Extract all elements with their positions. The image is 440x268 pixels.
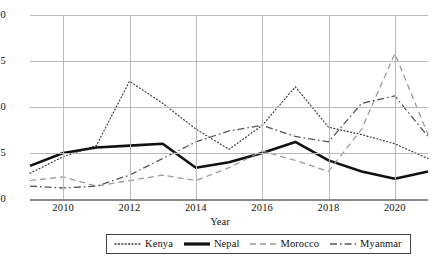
legend-swatch-nepal (184, 240, 210, 248)
series-line-morocco (30, 54, 428, 186)
legend-item-kenya[interactable]: Kenya (115, 238, 173, 249)
gridline-horizontal (30, 199, 428, 201)
chart-legend: KenyaNepalMoroccoMyanmar (106, 234, 411, 254)
legend-item-myanmar[interactable]: Myanmar (330, 238, 402, 249)
gridline-horizontal (30, 15, 428, 16)
x-axis-tick-label: 2020 (369, 202, 421, 213)
x-axis-tick-label: 2014 (170, 202, 222, 213)
x-axis-tick-label: 2016 (236, 202, 288, 213)
line-chart: 0255075100 201020122014201620182020 Year… (0, 0, 440, 268)
y-axis-tick-label: 50 (0, 102, 6, 112)
legend-swatch-myanmar (330, 240, 356, 248)
legend-label: Nepal (214, 238, 240, 249)
gridline-vertical (63, 15, 64, 199)
legend-swatch-kenya (115, 240, 141, 248)
legend-label: Morocco (280, 238, 319, 249)
gridline-horizontal (30, 107, 428, 108)
legend-item-morocco[interactable]: Morocco (250, 238, 319, 249)
x-axis-title: Year (0, 216, 440, 227)
series-line-nepal (30, 142, 428, 179)
gridline-horizontal (30, 153, 428, 154)
gridline-vertical (329, 15, 330, 199)
legend-swatch-morocco (250, 240, 276, 248)
gridline-horizontal (30, 61, 428, 62)
gridline-vertical (262, 15, 263, 199)
plot-area (30, 15, 428, 199)
series-line-kenya (30, 81, 428, 173)
gridline-vertical (130, 15, 131, 199)
x-axis-tick-label: 2018 (303, 202, 355, 213)
y-axis-tick-label: 25 (0, 148, 6, 158)
y-axis-tick-label: 100 (0, 10, 6, 20)
gridline-vertical (196, 15, 197, 199)
gridline-vertical (395, 15, 396, 199)
y-axis-tick-label: 0 (0, 194, 6, 204)
y-axis-tick-label: 75 (0, 56, 6, 66)
x-axis-tick-label: 2012 (104, 202, 156, 213)
legend-label: Kenya (145, 238, 173, 249)
legend-item-nepal[interactable]: Nepal (184, 238, 240, 249)
x-axis-tick-label: 2010 (37, 202, 89, 213)
legend-label: Myanmar (360, 238, 402, 249)
